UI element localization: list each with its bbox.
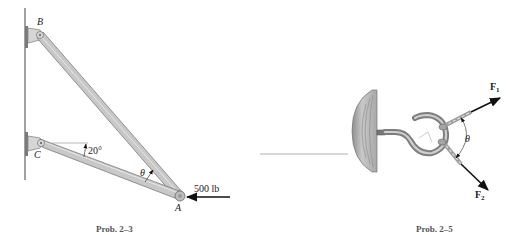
wall-plate-c	[25, 132, 28, 156]
caption-prob-2-3: Prob. 2–3	[96, 225, 133, 234]
wood-block	[352, 90, 377, 172]
force-2-label: F2	[475, 190, 485, 202]
point-c-label: C	[34, 150, 41, 160]
wall-plate-b	[25, 26, 28, 48]
member-ba	[37, 32, 183, 199]
force-1-subscript: 1	[496, 86, 500, 94]
force-2-subscript: 2	[481, 194, 485, 202]
force-1-label: F1	[490, 82, 500, 94]
diagram-canvas	[0, 0, 514, 235]
point-b-label: B	[37, 17, 43, 27]
angle-20-arc	[84, 144, 86, 157]
force-1-arrow	[471, 98, 500, 112]
hook-figure	[260, 90, 500, 190]
truss-figure	[25, 8, 230, 201]
force-2-arrow	[461, 164, 488, 190]
theta-label: θ	[465, 134, 470, 144]
caption-prob-2-5: Prob. 2–5	[416, 225, 453, 234]
cable-2	[443, 142, 461, 164]
angle-20-label: 20°	[88, 146, 102, 156]
theta-label: θ	[140, 168, 145, 178]
caption-text: Prob. 2–3	[96, 224, 133, 234]
point-a-label: A	[175, 203, 181, 213]
caption-text: Prob. 2–5	[416, 224, 453, 234]
load-label: 500 lb	[194, 184, 219, 194]
